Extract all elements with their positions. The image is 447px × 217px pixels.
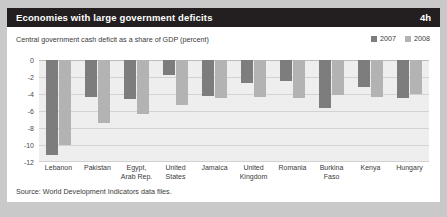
legend-item-2008: 2008 [405, 34, 430, 43]
x-axis-tick-label: Egypt,Arab Rep. [117, 164, 156, 181]
bar-groups [39, 60, 429, 162]
chart-legend: 20072008 [371, 34, 430, 43]
bar-2008 [371, 60, 383, 97]
bar-group [390, 60, 429, 162]
bar-2008 [410, 60, 422, 94]
bar-group [78, 60, 117, 162]
bar-2008 [59, 60, 71, 145]
legend-item-2007: 2007 [371, 34, 396, 43]
bar-2008 [215, 60, 227, 98]
bar-group [195, 60, 234, 162]
x-axis-tick-label: UnitedStates [156, 164, 195, 181]
x-axis-tick-label: UnitedKingdom [234, 164, 273, 181]
x-axis-tick-label: Kenya [351, 164, 390, 181]
bar-2008 [293, 60, 305, 98]
y-axis-tick-label: -10 [8, 142, 34, 149]
bar-2007 [202, 60, 214, 96]
source-note: Source: World Development Indicators dat… [16, 187, 172, 196]
bar-2007 [397, 60, 409, 98]
legend-swatch-icon [405, 36, 411, 42]
bar-2007 [85, 60, 97, 97]
y-axis-tick-label: -8 [8, 125, 34, 132]
bar-2008 [98, 60, 110, 123]
x-axis-tick-label: Pakistan [78, 164, 117, 181]
source-area: Source: World Development Indicators dat… [7, 183, 440, 202]
x-axis-tick-label: BurkinaFaso [312, 164, 351, 181]
bar-2008 [332, 60, 344, 95]
bar-2007 [319, 60, 331, 108]
bar-2007 [280, 60, 292, 81]
x-axis-labels: LebanonPakistanEgypt,Arab Rep.UnitedStat… [39, 164, 429, 181]
y-axis-tick-label: -12 [8, 159, 34, 166]
bar-2007 [163, 60, 175, 75]
x-axis-tick-label: Lebanon [39, 164, 78, 181]
x-axis-tick-label: Jamaica [195, 164, 234, 181]
chart-subtitle: Central government cash deficit as a sha… [16, 35, 209, 44]
y-axis-tick-label: -4 [8, 91, 34, 98]
bar-group [312, 60, 351, 162]
bar-group [234, 60, 273, 162]
bar-2007 [46, 60, 58, 155]
legend-label: 2008 [414, 34, 430, 43]
page-title: Economies with large government deficits [16, 12, 213, 23]
y-axis-tick-label: -6 [8, 108, 34, 115]
bar-2007 [358, 60, 370, 87]
chart-panel: Central government cash deficit as a sha… [7, 27, 440, 183]
y-axis-tick-label: -2 [8, 74, 34, 81]
bar-group [117, 60, 156, 162]
bar-2008 [137, 60, 149, 114]
plot-area [39, 60, 429, 162]
bar-group [39, 60, 78, 162]
chart-figure: Economies with large government deficits… [7, 8, 440, 202]
legend-label: 2007 [380, 34, 396, 43]
x-axis-tick-label: Romania [273, 164, 312, 181]
x-axis-tick-label: Hungary [390, 164, 429, 181]
figure-number: 4h [420, 12, 431, 23]
bar-group [273, 60, 312, 162]
bar-group [156, 60, 195, 162]
bar-group [351, 60, 390, 162]
y-axis-tick-label: 0 [8, 57, 34, 64]
bar-2007 [124, 60, 136, 99]
bar-2007 [241, 60, 253, 83]
chart-header: Economies with large government deficits… [7, 8, 440, 27]
legend-swatch-icon [371, 36, 377, 42]
y-axis-labels: 0-2-4-6-8-10-12 [7, 60, 37, 162]
bar-2008 [254, 60, 266, 97]
bar-2008 [176, 60, 188, 105]
